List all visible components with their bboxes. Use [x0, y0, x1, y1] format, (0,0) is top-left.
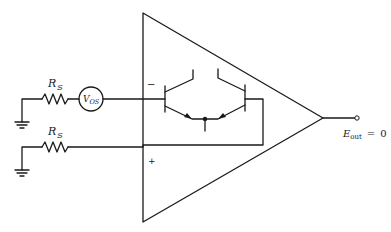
- top-ground-icon: [15, 122, 29, 128]
- rs-bottom-label: RS: [47, 125, 63, 140]
- output-label: Eout=0: [342, 128, 387, 141]
- resistor-rs-top: [42, 94, 68, 104]
- rs-top-label: RS: [47, 77, 63, 92]
- circuit-diagram: RS VOS RS − + Eout=0: [0, 0, 391, 232]
- resistor-rs-bottom: [42, 142, 68, 152]
- left-emitter-arrow-icon: [184, 113, 192, 119]
- vos-label: VOS: [83, 94, 100, 106]
- right-emitter-arrow-icon: [218, 113, 226, 119]
- bottom-ground-wire: [22, 147, 42, 170]
- inverting-input-symbol: −: [147, 79, 155, 90]
- left-transistor: [165, 70, 205, 119]
- right-transistor: [205, 69, 245, 119]
- noninverting-input-symbol: +: [148, 156, 156, 166]
- bottom-input-branch: RS: [15, 99, 263, 176]
- output-terminal: [355, 116, 359, 120]
- top-ground-wire: [22, 99, 42, 122]
- opamp-triangle: [143, 13, 323, 222]
- bottom-ground-icon: [15, 170, 29, 176]
- left-collector: [165, 70, 193, 92]
- right-collector: [218, 69, 245, 91]
